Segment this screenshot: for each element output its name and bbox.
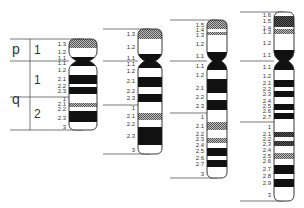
band-fill — [138, 127, 162, 145]
band-label: 1.5 — [263, 18, 272, 24]
band-label: 3 — [268, 192, 272, 198]
band-fill — [274, 165, 294, 174]
band-label: 3 — [132, 147, 136, 153]
band-fill — [207, 122, 227, 130]
band-label: 1.3 — [127, 31, 136, 37]
band-fill — [207, 32, 227, 35]
band-fill — [274, 113, 294, 119]
region-label-q2: 2 — [34, 107, 41, 121]
band-fill — [207, 138, 227, 143]
band-label: 2.3 — [196, 103, 205, 109]
band-fill — [69, 87, 97, 94]
band-label: 2.7 — [263, 114, 272, 120]
arm-label-p: p — [12, 41, 20, 57]
band-label: 2.2 — [127, 88, 136, 94]
band-fill — [274, 153, 294, 159]
band-fill — [207, 148, 227, 156]
band-label: 1.1 — [196, 53, 205, 59]
band-fill — [274, 16, 294, 27]
band-fill — [69, 75, 97, 84]
band-fill — [138, 54, 162, 68]
band-fill — [274, 179, 294, 187]
band-fill — [69, 103, 97, 107]
band-label: 1.1 — [263, 64, 272, 70]
band-fill — [138, 29, 162, 39]
band-label: 1.3 — [196, 32, 205, 38]
band-label: 2.1 — [196, 85, 205, 91]
band-label: 2.1 — [196, 123, 205, 129]
band-fill — [138, 113, 162, 120]
chromosome-2: 1.31.21.11.11.22.12.22.312.12.22.33 — [103, 29, 162, 154]
band-fill — [69, 111, 97, 122]
band-label: 1 — [132, 105, 136, 111]
region-label-p1: 1 — [34, 43, 41, 57]
band-label: 1 — [201, 114, 205, 120]
band-fill — [274, 50, 294, 70]
band-fill — [274, 141, 294, 146]
band-label: 1.2 — [58, 67, 67, 73]
band-label: 1.3 — [58, 41, 67, 47]
band-fill — [274, 91, 294, 97]
band-label: 2.6 — [263, 158, 272, 164]
band-label: 2.1 — [127, 113, 136, 119]
band-fill — [207, 160, 227, 167]
band-label: 2.7 — [263, 166, 272, 172]
band-label: 2.2 — [58, 106, 67, 112]
band-fill — [207, 100, 227, 110]
band-label: 2.2 — [127, 121, 136, 127]
chromosome-3: 1.51.41.31.21.11.11.22.12.22.312.12.22.3… — [170, 20, 227, 178]
band-label: 3 — [63, 124, 67, 130]
chromosome-ideogram-diagram: p q 1 1 2 1.31.21.11.11.22.12.22.312.12.… — [0, 0, 304, 208]
band-label: 2.3 — [263, 91, 272, 97]
band-fill — [274, 29, 294, 34]
band-fill — [138, 94, 162, 102]
band-label: 1.2 — [127, 68, 136, 74]
band-fill — [274, 104, 294, 110]
band-label: 2.3 — [127, 133, 136, 139]
arm-region-key: p q 1 1 2 — [12, 39, 41, 130]
band-fill — [207, 20, 227, 29]
chromosome-4: 1.61.51.41.31.21.11.11.22.12.22.32.42.52… — [240, 12, 294, 201]
band-label: 3 — [201, 171, 205, 177]
band-label: 1.2 — [196, 72, 205, 78]
band-label: 1.3 — [263, 29, 272, 35]
band-fill — [69, 39, 97, 48]
band-label: 2.3 — [127, 95, 136, 101]
band-fill — [274, 132, 294, 137]
band-fill — [274, 80, 294, 87]
band-label: 2.5 — [196, 148, 205, 154]
band-label: 2.1 — [58, 76, 67, 82]
band-label: 2.3 — [58, 115, 67, 121]
arm-label-q: q — [12, 91, 20, 107]
band-label: 2.1 — [127, 78, 136, 84]
band-label: 1 — [268, 124, 272, 130]
band-label: 2.2 — [196, 94, 205, 100]
band-label: 1.1 — [58, 60, 67, 66]
band-label: 2.3 — [58, 88, 67, 94]
band-fill — [207, 79, 227, 93]
band-fill — [207, 52, 227, 70]
chromosome-1: 1.31.21.11.11.22.12.22.312.12.22.33 — [10, 39, 97, 130]
band-label: 1.2 — [127, 44, 136, 50]
band-label: 1.1 — [263, 52, 272, 58]
band-label: 1.2 — [196, 41, 205, 47]
band-label: 2.9 — [263, 180, 272, 186]
band-fill — [138, 77, 162, 87]
band-label: 1.2 — [263, 73, 272, 79]
band-label: 1.1 — [196, 63, 205, 69]
region-label-q1: 1 — [34, 73, 41, 87]
band-label: 1.2 — [263, 40, 272, 46]
band-label: 1.1 — [127, 61, 136, 67]
band-label: 2.8 — [263, 173, 272, 179]
band-label: 2.7 — [196, 161, 205, 167]
